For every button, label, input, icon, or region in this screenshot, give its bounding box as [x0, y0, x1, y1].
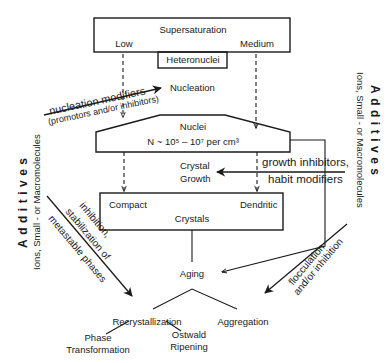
low-label: Low	[115, 38, 132, 49]
growth-inhibitors-label: growth inhibitors,	[262, 157, 349, 168]
additives-left-subtitle: Ions, Small - or Macromolecules	[31, 134, 42, 270]
nucleation-label: Nucleation	[170, 82, 215, 93]
additives-left-title: Additives	[16, 153, 30, 248]
additives-right-title: Additives	[368, 85, 382, 180]
nuclei-density-label: N ~ 10⁵ – 10⁷ per cm³	[147, 136, 239, 147]
nuclei-label: Nuclei	[180, 121, 206, 132]
habit-modifiers-label: habit modifiers	[268, 174, 343, 185]
medium-label: Medium	[240, 38, 274, 49]
crystals-label: Crystals	[175, 213, 209, 224]
recrystallization-label: Recrystallization	[112, 316, 181, 327]
supersaturation-label: Supersaturation	[159, 24, 226, 35]
ripening-label: Ripening	[170, 341, 208, 352]
heteronuclei-label: Heteronuclei	[166, 54, 219, 65]
aging-label: Aging	[180, 268, 204, 279]
ostwald-label: Ostwald	[172, 329, 206, 340]
crystal-growth-label-1: Crystal	[180, 160, 210, 171]
dendritic-label: Dendritic	[240, 199, 278, 210]
aggregation-label: Aggregation	[217, 316, 268, 327]
additives-right-subtitle: Ions, Small - or Macromolecules	[355, 72, 366, 208]
compact-label: Compact	[109, 199, 147, 210]
crystal-growth-label-2: Growth	[180, 173, 211, 184]
transformation-label: Transformation	[66, 344, 130, 355]
phase-label: Phase	[85, 332, 112, 343]
